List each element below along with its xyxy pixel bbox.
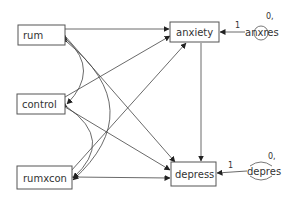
regression-paths bbox=[65, 29, 247, 178]
svg-text:depres: depres bbox=[247, 166, 281, 177]
path-depres-depress bbox=[217, 171, 247, 173]
svg-text:0,: 0, bbox=[268, 152, 276, 161]
covariance-curves bbox=[67, 40, 110, 180]
svg-text:1: 1 bbox=[228, 161, 233, 170]
svg-text:rum: rum bbox=[23, 30, 43, 41]
node-depress[interactable]: depress bbox=[171, 162, 216, 186]
svg-text:depress: depress bbox=[175, 169, 214, 180]
svg-text:anxiety: anxiety bbox=[176, 27, 213, 38]
node-rum[interactable]: rum bbox=[18, 25, 65, 45]
path-rumxcon-depress bbox=[72, 177, 170, 178]
node-rumxcon[interactable]: rumxcon bbox=[17, 166, 72, 189]
path-diagram: rum control rumxcon anxiety depress anxr… bbox=[0, 0, 293, 199]
node-control[interactable]: control bbox=[17, 94, 65, 114]
node-anxiety[interactable]: anxiety bbox=[170, 22, 219, 42]
svg-text:control: control bbox=[22, 99, 57, 110]
svg-text:1: 1 bbox=[235, 21, 240, 30]
error-depres[interactable]: depres 1 0, bbox=[228, 152, 281, 180]
error-anxres[interactable]: anxres 1 0, bbox=[235, 12, 279, 40]
svg-text:anxres: anxres bbox=[245, 27, 279, 38]
path-control-anxiety bbox=[65, 36, 170, 97]
svg-text:0,: 0, bbox=[266, 12, 274, 21]
svg-text:rumxcon: rumxcon bbox=[23, 173, 67, 184]
